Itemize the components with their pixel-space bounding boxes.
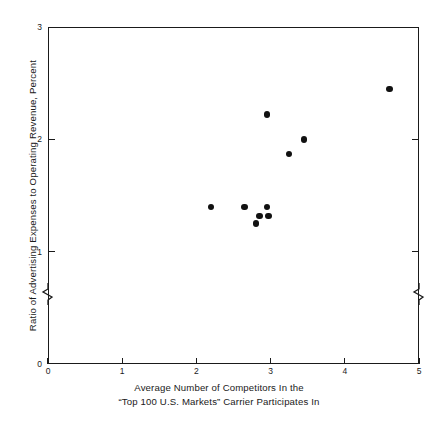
data-point (301, 136, 307, 142)
y-axis-tick-label: 1 (28, 247, 42, 257)
x-axis-title-line1: Average Number of Competitors In the (134, 382, 303, 393)
scatter-plot-figure: Ratio of Advertising Expenses to Operati… (0, 0, 438, 429)
plot-area (48, 27, 419, 364)
y-axis-tick (49, 139, 55, 140)
x-axis-tick-label: 4 (335, 366, 355, 376)
y-axis-tick (49, 251, 55, 252)
y-axis-tick-label: 2 (28, 134, 42, 144)
data-point (256, 213, 262, 219)
data-point (386, 86, 392, 92)
y-axis-break-right (412, 283, 426, 305)
y-axis-tick-right (412, 251, 418, 252)
x-axis-title: Average Number of Competitors In the “To… (0, 381, 438, 409)
data-point (264, 111, 270, 117)
x-axis-tick (344, 358, 345, 364)
data-point (264, 204, 270, 210)
data-point (241, 204, 247, 210)
y-axis-tick-label: 3 (28, 22, 42, 32)
y-axis-tick-right (412, 139, 418, 140)
y-axis-tick-label: 0 (28, 359, 42, 369)
x-axis-tick-label: 1 (112, 366, 132, 376)
y-axis-title: Ratio of Advertising Expenses to Operati… (27, 36, 38, 356)
x-axis-tick (270, 358, 271, 364)
x-axis-tick-label: 2 (186, 366, 206, 376)
data-point (253, 220, 259, 226)
x-axis-tick-label: 5 (409, 366, 429, 376)
y-axis-break-left (41, 283, 55, 305)
x-axis-tick (418, 358, 419, 364)
x-axis-tick (47, 358, 48, 364)
data-point (265, 213, 271, 219)
x-axis-title-line2: “Top 100 U.S. Markets” Carrier Participa… (0, 395, 438, 409)
x-axis-tick (122, 358, 123, 364)
x-axis-tick-label: 3 (261, 366, 281, 376)
x-axis-tick (196, 358, 197, 364)
